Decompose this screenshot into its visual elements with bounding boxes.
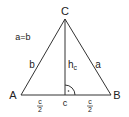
side-c-label: c (63, 98, 68, 108)
side-a-line (65, 19, 111, 95)
fraction-denominator: 2 (88, 106, 92, 113)
height-label: hc (68, 59, 78, 71)
height-label-subscript: c (74, 64, 78, 71)
fraction-numerator: c (38, 98, 42, 105)
right-angle-arc-icon (65, 85, 75, 95)
triangle-diagram: C A B a=b b a hc c c 2 c 2 (0, 0, 129, 117)
vertex-b-label: B (113, 89, 120, 101)
vertex-c-label: C (61, 5, 69, 17)
fraction-numerator: c (88, 98, 92, 105)
condition-label: a=b (15, 32, 30, 42)
fraction-denominator: 2 (38, 106, 42, 113)
side-b-label: b (29, 59, 35, 70)
half-base-right-fraction: c 2 (87, 98, 93, 113)
half-base-left-fraction: c 2 (37, 98, 43, 113)
side-b-line (21, 19, 65, 95)
side-a-label: a (95, 59, 101, 70)
vertex-a-label: A (9, 89, 17, 101)
right-angle-dot-icon (68, 90, 70, 92)
